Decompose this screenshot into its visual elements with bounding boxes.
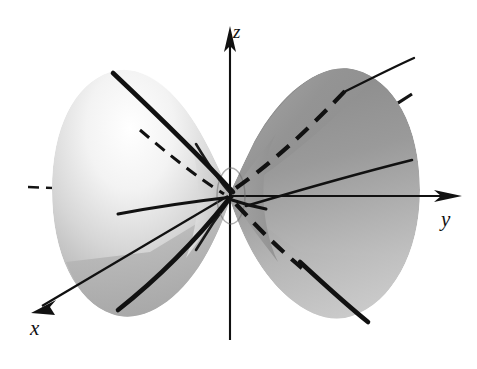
axis-label-y: y <box>441 209 450 230</box>
axis-label-z: z <box>233 22 240 41</box>
hyperboloid-figure <box>0 0 477 369</box>
axis-label-x: x <box>30 318 39 339</box>
